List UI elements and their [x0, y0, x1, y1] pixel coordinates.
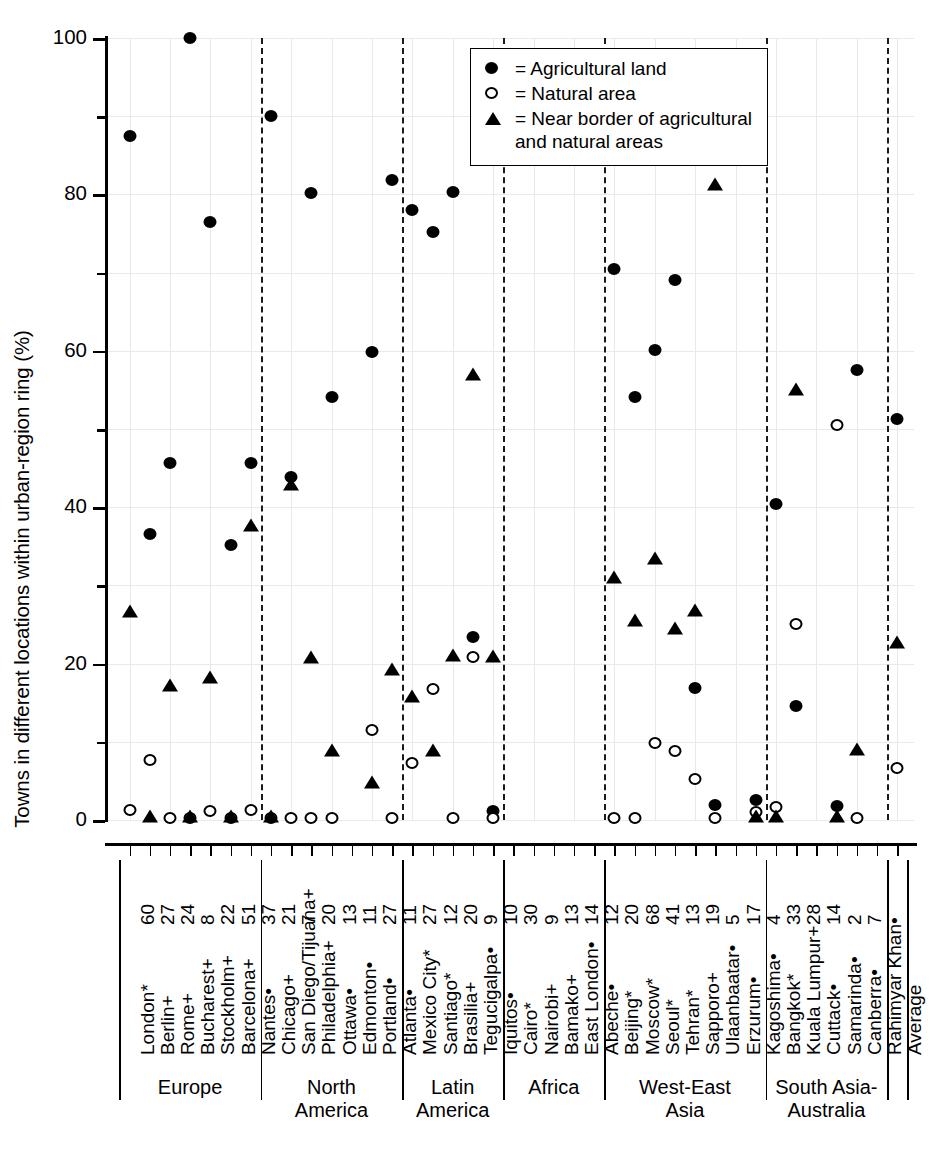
marker-near-border — [283, 478, 299, 491]
region-label: Africa — [503, 1076, 604, 1099]
x-tick-city-label: Berlin+ — [157, 995, 179, 1055]
marker-natural-area — [244, 804, 257, 816]
x-tick-city-label: Ottawa• — [339, 988, 361, 1055]
gridline-horizontal — [108, 38, 914, 39]
x-tick-city-label: Stockholm+ — [217, 955, 239, 1055]
x-tick-city-label: Bangkok* — [783, 974, 805, 1055]
region-label: South Asia-Australia — [766, 1076, 887, 1122]
gridline-horizontal — [108, 194, 914, 195]
marker-natural-area — [790, 618, 803, 630]
marker-agricultural-land — [123, 130, 136, 142]
marker-natural-area — [689, 773, 702, 785]
x-tick-city-label: Chicago+ — [278, 974, 300, 1055]
y-tick-label: 60 — [17, 338, 87, 362]
x-tick-city-label: Seoul* — [662, 999, 684, 1055]
marker-natural-area — [466, 651, 479, 663]
region-separator — [261, 38, 263, 820]
x-tick-count: 19 — [702, 904, 724, 925]
marker-agricultural-land — [143, 528, 156, 540]
gridline-vertical — [130, 38, 131, 820]
marker-natural-area — [365, 724, 378, 736]
marker-agricultural-land — [386, 174, 399, 186]
x-tick — [130, 845, 132, 856]
y-tick-major — [93, 507, 105, 510]
region-label: West-EastAsia — [604, 1076, 766, 1122]
x-tick-city-label: Mexico City* — [419, 949, 441, 1055]
marker-near-border — [849, 742, 865, 755]
y-tick-minor — [97, 429, 105, 432]
marker-near-border — [202, 670, 218, 683]
gridline-vertical — [291, 38, 292, 820]
x-tick-count: 9 — [480, 914, 502, 925]
x-tick-city-label: Santiago* — [440, 973, 462, 1055]
filled-circle-icon — [485, 57, 515, 74]
x-tick-count: 17 — [743, 904, 765, 925]
x-tick-count: 13 — [339, 904, 361, 925]
y-tick-label: 0 — [17, 807, 87, 831]
marker-agricultural-land — [628, 391, 641, 403]
x-tick-city-label: Bucharest+ — [197, 958, 219, 1055]
x-tick-count: 21 — [278, 904, 300, 925]
x-tick-city-label: Barcelona+ — [238, 958, 260, 1055]
y-tick-label: 100 — [17, 25, 87, 49]
marker-near-border — [243, 519, 259, 532]
gridline-horizontal — [108, 429, 914, 430]
x-tick — [352, 845, 354, 856]
region-separator — [887, 38, 889, 820]
x-tick — [695, 845, 697, 856]
marker-near-border — [324, 744, 340, 757]
x-tick-count: 27 — [379, 904, 401, 925]
x-tick — [291, 845, 293, 856]
y-tick-major — [93, 38, 105, 41]
x-tick — [210, 845, 212, 856]
y-tick-major — [93, 194, 105, 197]
y-tick-major — [93, 351, 105, 354]
x-tick-count: 13 — [682, 904, 704, 925]
region-label: Europe — [119, 1076, 260, 1099]
marker-agricultural-land — [305, 187, 318, 199]
marker-near-border — [364, 776, 380, 789]
marker-agricultural-land — [325, 391, 338, 403]
gridline-vertical — [816, 38, 817, 820]
x-tick — [372, 845, 374, 856]
x-tick-city-label: Erzurum• — [743, 977, 765, 1055]
x-tick-city-label: Beijing* — [621, 991, 643, 1055]
x-tick-city-label: Rome+ — [177, 993, 199, 1055]
gridline-horizontal — [108, 585, 914, 586]
legend-item: = Near border of agricultural and natura… — [485, 107, 757, 153]
x-tick — [574, 845, 576, 856]
gridline-vertical — [857, 38, 858, 820]
marker-near-border — [707, 178, 723, 191]
x-tick — [635, 845, 637, 856]
marker-near-border — [687, 603, 703, 616]
legend-label: = Agricultural land — [515, 57, 667, 80]
x-tick — [190, 845, 192, 856]
marker-near-border — [425, 743, 441, 756]
x-tick — [473, 845, 475, 856]
x-tick-city-label: Philadelphia+ — [318, 940, 340, 1055]
marker-near-border — [606, 570, 622, 583]
marker-near-border — [384, 662, 400, 675]
marker-agricultural-land — [689, 682, 702, 694]
x-tick — [614, 845, 616, 856]
region-divider — [887, 860, 889, 1100]
region-divider — [402, 860, 404, 1100]
marker-near-border — [263, 810, 279, 823]
region-divider — [119, 860, 121, 1100]
gridline-vertical — [453, 38, 454, 820]
marker-agricultural-land — [668, 274, 681, 286]
x-tick — [412, 845, 414, 856]
gridline-horizontal — [108, 351, 914, 352]
marker-near-border — [829, 810, 845, 823]
marker-agricultural-land — [163, 457, 176, 469]
x-tick-count: 14 — [823, 904, 845, 925]
marker-agricultural-land — [648, 344, 661, 356]
y-tick-minor — [97, 116, 105, 119]
marker-natural-area — [426, 683, 439, 695]
marker-agricultural-land — [365, 346, 378, 358]
x-tick — [493, 845, 495, 856]
x-tick-city-label: East London• — [581, 942, 603, 1055]
y-tick-minor — [97, 273, 105, 276]
y-tick-label: 20 — [17, 651, 87, 675]
marker-natural-area — [891, 762, 904, 774]
